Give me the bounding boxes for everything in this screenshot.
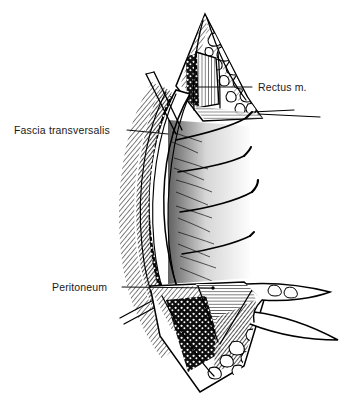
cavity-gradient [168,120,252,284]
leader-peritoneum-dot [211,286,214,289]
label-rectus-m: Rectus m. [258,81,307,93]
label-peritoneum: Peritoneum [52,281,107,293]
illustration-canvas: Rectus m. Fascia transversalis Peritoneu… [0,0,352,403]
cavity-shading [168,120,252,284]
label-fascia-transversalis: Fascia transversalis [14,124,110,136]
surgical-illustration-figure: Rectus m. Fascia transversalis Peritoneu… [0,0,352,403]
